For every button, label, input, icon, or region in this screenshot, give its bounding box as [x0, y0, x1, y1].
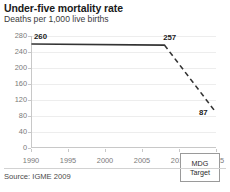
series-line-projected [164, 45, 216, 112]
chart-figure: Under-five mortality rate Deaths per 1,0… [0, 0, 230, 192]
chart-subtitle: Deaths per 1,000 live births [4, 14, 226, 25]
series-layer [32, 36, 216, 147]
y-tick-label: 80 [2, 112, 27, 120]
y-tick-label: 240 [2, 48, 27, 56]
data-point-label: 87 [199, 109, 208, 117]
footer-divider [4, 168, 226, 169]
plot-wrapper: 28024020016012080400 26025787 1990199520… [0, 31, 230, 155]
data-point-label: 260 [34, 33, 47, 41]
x-tick-mark [31, 149, 32, 152]
mdg-target-line-1: MDG [192, 159, 209, 168]
x-tick-mark [216, 149, 217, 152]
chart-title: Under-five mortality rate [4, 2, 226, 14]
y-tick-label: 160 [2, 80, 27, 88]
x-tick-mark [179, 149, 180, 152]
x-tick-label: 2000 [90, 156, 120, 165]
source-note: Source: IGME 2009 [4, 172, 71, 182]
series-line-observed [32, 44, 164, 45]
x-tick-label: 1995 [53, 156, 83, 165]
y-tick-label: 40 [2, 128, 27, 136]
y-tick-label: 200 [2, 64, 27, 72]
x-tick-mark [105, 149, 106, 152]
y-tick-label: 280 [2, 32, 27, 40]
y-tick-label: 0 [2, 144, 27, 152]
data-point-label: 257 [163, 34, 176, 42]
x-tick-mark [142, 149, 143, 152]
x-tick-label: 1990 [16, 156, 46, 165]
y-tick-label: 120 [2, 96, 27, 104]
x-tick-label: 2005 [127, 156, 157, 165]
plot-area: 26025787 [31, 36, 216, 148]
chart-header: Under-five mortality rate Deaths per 1,0… [4, 2, 226, 25]
x-tick-mark [68, 149, 69, 152]
